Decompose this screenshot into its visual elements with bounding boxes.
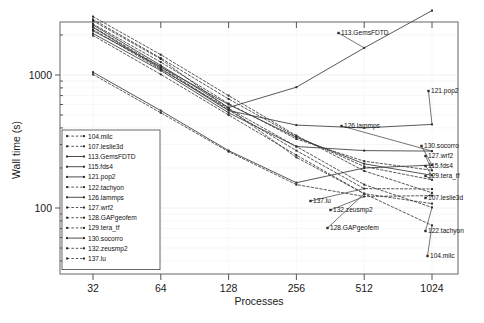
y-tick-label: 1000 <box>29 69 53 81</box>
legend-marker <box>83 145 85 147</box>
data-point <box>228 109 230 111</box>
legend-label[interactable]: 132.zeusmp2 <box>88 245 128 253</box>
chart-legend: 104.milc107.leslie3d113.GemsFDTD115.fds4… <box>62 130 160 270</box>
wall-time-vs-processes-chart: 113.GemsFDTD121.pop2126.lammps130.socorr… <box>0 0 484 323</box>
data-point <box>92 16 94 18</box>
legend-marker <box>83 196 85 198</box>
legend-label[interactable]: 137.lu <box>88 255 106 262</box>
data-point <box>295 146 297 148</box>
legend-marker <box>83 135 85 137</box>
data-point <box>431 188 433 190</box>
data-point <box>92 35 94 37</box>
y-tick-label: 100 <box>34 202 52 214</box>
data-point <box>363 160 365 162</box>
leader-dot <box>329 209 331 211</box>
data-point <box>295 184 297 186</box>
series-end-label: 122.tachyon <box>428 227 464 235</box>
legend-label[interactable]: 115.fds4 <box>88 163 113 170</box>
legend-label[interactable]: 104.milc <box>88 133 113 140</box>
data-point <box>295 124 297 126</box>
series-end-label: 104.milc <box>430 252 455 259</box>
x-tick-label: 256 <box>288 282 306 294</box>
legend-marker <box>83 237 85 239</box>
data-point <box>363 184 365 186</box>
y-axis-title: Wall time (s) <box>10 121 22 179</box>
legend-label[interactable]: 127.wrf2 <box>88 204 114 211</box>
legend-marker <box>66 156 68 158</box>
data-point <box>160 70 162 72</box>
legend-label[interactable]: 126.lammps <box>88 194 125 202</box>
data-point <box>92 33 94 35</box>
data-point <box>92 73 94 75</box>
leader-dot <box>426 255 428 257</box>
legend-marker <box>83 227 85 229</box>
leader-dot <box>424 230 426 232</box>
data-point <box>431 10 433 12</box>
data-point <box>92 18 94 20</box>
series-end-label: 113.GemsFDTD <box>341 29 389 36</box>
leader-dot <box>424 197 426 199</box>
legend-marker <box>66 166 68 168</box>
leader-dot <box>326 227 328 229</box>
legend-marker <box>66 135 68 137</box>
legend-label[interactable]: 130.socorro <box>88 235 123 242</box>
series-end-label: 126.lammps <box>344 122 381 130</box>
data-point <box>160 54 162 56</box>
legend-marker <box>66 217 68 219</box>
data-point <box>228 103 230 105</box>
legend-label[interactable]: 128.GAPgeofem <box>88 214 137 222</box>
chart-container: 113.GemsFDTD121.pop2126.lammps130.socorr… <box>0 0 484 323</box>
series-end-label: 121.pop2 <box>431 87 459 95</box>
data-point <box>295 156 297 158</box>
series-end-label: 128.GAPgeofem <box>330 224 379 232</box>
legend-label[interactable]: 113.GemsFDTD <box>88 153 136 160</box>
legend-marker <box>66 258 68 260</box>
data-point <box>431 203 433 205</box>
leader-dot <box>309 200 311 202</box>
data-point <box>92 29 94 31</box>
legend-marker <box>66 247 68 249</box>
data-point <box>363 167 365 169</box>
series-end-label: 129.tera_tf <box>428 172 460 180</box>
data-point <box>160 73 162 75</box>
data-point <box>363 170 365 172</box>
data-point <box>160 61 162 63</box>
legend-marker <box>66 207 68 209</box>
legend-marker <box>83 258 85 260</box>
x-tick-label: 128 <box>220 282 238 294</box>
legend-marker <box>83 207 85 209</box>
legend-label[interactable]: 107.leslie3d <box>88 143 124 150</box>
data-point <box>92 23 94 25</box>
data-point <box>160 57 162 59</box>
leader-dot <box>424 155 426 157</box>
leader-dot <box>424 165 426 167</box>
data-point <box>363 150 365 152</box>
legend-label[interactable]: 121.pop2 <box>88 173 116 181</box>
data-point <box>92 71 94 73</box>
x-tick-label: 32 <box>87 282 99 294</box>
data-point <box>228 98 230 100</box>
leader-dot <box>420 145 422 147</box>
leader-dot <box>424 175 426 177</box>
legend-marker <box>83 176 85 178</box>
legend-label[interactable]: 129.tera_tf <box>88 224 120 232</box>
data-point <box>228 151 230 153</box>
series-end-label: 107.leslie3d <box>428 194 464 201</box>
legend-marker <box>83 166 85 168</box>
legend-marker <box>66 186 68 188</box>
x-axis-title: Processes <box>234 295 283 307</box>
series-end-label: 137.lu <box>313 197 331 204</box>
data-point <box>160 110 162 112</box>
data-point <box>295 154 297 156</box>
data-point <box>295 150 297 152</box>
legend-marker <box>66 237 68 239</box>
legend-marker <box>66 227 68 229</box>
x-tick-label: 512 <box>355 282 373 294</box>
data-point <box>295 136 297 138</box>
leader-dot <box>337 32 339 34</box>
data-point <box>228 112 230 114</box>
series-end-label: 132.zeusmp2 <box>333 206 373 214</box>
legend-label[interactable]: 122.tachyon <box>88 184 124 192</box>
data-point <box>228 114 230 116</box>
data-point <box>228 95 230 97</box>
